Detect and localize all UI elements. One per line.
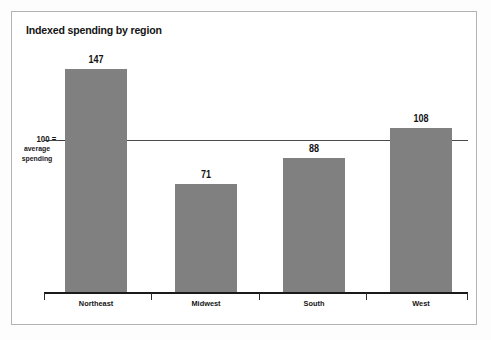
category-label-west: West: [384, 299, 458, 308]
bar-value-west: 108: [393, 113, 449, 124]
bar-midwest: [175, 184, 237, 292]
bar-value-northeast: 147: [68, 54, 124, 65]
bar-chart: Indexed spending by region 100 = average…: [0, 0, 491, 340]
axis-tick-3: [366, 293, 367, 300]
bar-south: [283, 158, 345, 292]
axis-tick-1: [151, 293, 152, 300]
category-label-south: South: [277, 299, 351, 308]
category-label-northeast: Northeast: [59, 299, 133, 308]
reference-label-line-2: average: [16, 144, 58, 154]
chart-title: Indexed spending by region: [26, 24, 162, 36]
axis-tick-end: [467, 293, 468, 300]
category-label-midwest: Midwest: [169, 299, 243, 308]
bar-northeast: [65, 69, 127, 292]
reference-label-line-3: spending: [16, 154, 58, 164]
bar-value-south: 88: [286, 143, 342, 154]
figure-page: Indexed spending by region 100 = average…: [0, 0, 491, 340]
reference-label-line-1: 100 =: [16, 134, 58, 144]
bar-value-midwest: 71: [178, 169, 234, 180]
axis-tick-start: [44, 293, 45, 300]
reference-line-label: 100 = average spending: [16, 134, 58, 164]
bar-west: [390, 128, 452, 292]
category-axis-line: [44, 292, 468, 294]
axis-tick-2: [259, 293, 260, 300]
